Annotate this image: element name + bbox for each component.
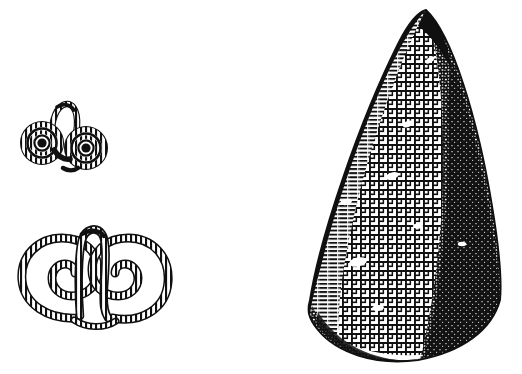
engraving-plate bbox=[0, 0, 522, 374]
small-fibula-spiral-left bbox=[20, 121, 64, 165]
small-fibula-spiral-right bbox=[64, 126, 108, 170]
small-fibula-foot bbox=[63, 168, 78, 170]
plate-canvas bbox=[0, 0, 522, 374]
